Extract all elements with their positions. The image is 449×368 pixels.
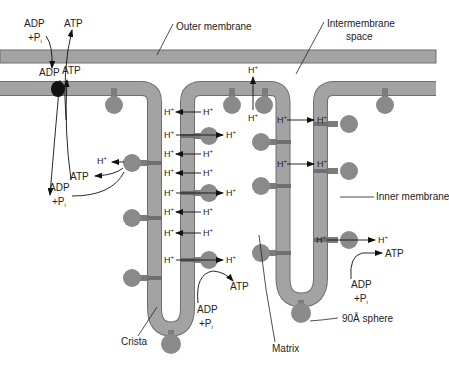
svg-text:space: space: [346, 31, 373, 42]
svg-text:90Å sphere: 90Å sphere: [342, 312, 394, 324]
proton-flow-left-crista: H+ H+ H+ H+ H+ H+ H+ H+ H+ H+ H+ H+ H+ H…: [164, 106, 237, 265]
right-synthase-reaction: ATP ADP +Pi: [351, 248, 404, 305]
svg-text:ADP: ADP: [351, 279, 372, 290]
svg-text:H+: H+: [164, 227, 175, 238]
svg-text:H+: H+: [203, 227, 214, 238]
svg-text:ADP: ADP: [49, 182, 70, 193]
translocation-labels: ADP +Pi ATP ADP ATP: [24, 18, 83, 78]
svg-text:+Pi: +Pi: [28, 32, 42, 44]
svg-text:ADP: ADP: [39, 67, 60, 78]
svg-text:H+: H+: [378, 234, 389, 245]
svg-text:H+: H+: [164, 106, 175, 117]
inner-membrane-label: Inner membrane: [340, 191, 449, 202]
svg-text:H+: H+: [164, 129, 175, 140]
svg-text:H+: H+: [203, 148, 214, 159]
svg-text:H+: H+: [97, 155, 108, 166]
svg-text:H+: H+: [164, 187, 175, 198]
mitochondrion-diagram: Outer membrane Intermembrane space Inner…: [0, 0, 449, 368]
svg-text:ADP: ADP: [24, 18, 45, 29]
inner-membrane: [0, 89, 436, 330]
svg-text:H+: H+: [203, 167, 214, 178]
lower-left-synthase-reaction: ATP ADP +Pi: [197, 271, 249, 330]
svg-text:ATP: ATP: [62, 65, 81, 76]
svg-text:Outer membrane: Outer membrane: [176, 21, 252, 32]
intermembrane-space-label: Intermembrane space: [296, 18, 395, 74]
svg-text:Matrix: Matrix: [272, 343, 299, 354]
left-synthase-reaction: H+ ATP ADP +Pi: [49, 155, 124, 208]
svg-text:+Pi: +Pi: [199, 318, 213, 330]
svg-text:ATP: ATP: [70, 171, 89, 182]
svg-text:H+: H+: [226, 254, 237, 265]
outer-membrane: [0, 50, 436, 63]
svg-text:H+: H+: [203, 206, 214, 217]
adp-atp-translocase: [51, 81, 65, 97]
svg-text:H+: H+: [164, 167, 175, 178]
svg-text:+Pi: +Pi: [52, 196, 66, 208]
svg-text:H+: H+: [226, 187, 237, 198]
sphere-label: 90Å sphere: [310, 312, 394, 324]
svg-text:ATP: ATP: [385, 248, 404, 259]
proton-channels: [147, 122, 328, 280]
svg-text:H+: H+: [248, 64, 259, 75]
svg-text:ATP: ATP: [230, 281, 249, 292]
svg-text:H+: H+: [164, 148, 175, 159]
svg-text:H+: H+: [164, 254, 175, 265]
svg-text:Intermembrane: Intermembrane: [327, 18, 395, 29]
proton-flow-right-crista: H+ H+ H+ H+ H+ H+: [277, 114, 389, 245]
svg-text:H+: H+: [226, 129, 237, 140]
svg-text:H+: H+: [164, 206, 175, 217]
svg-text:+Pi: +Pi: [354, 293, 368, 305]
svg-text:Crista: Crista: [121, 336, 148, 347]
svg-text:H+: H+: [248, 112, 259, 123]
svg-text:Inner membrane: Inner membrane: [376, 191, 449, 202]
svg-text:ATP: ATP: [64, 18, 83, 29]
svg-text:ADP: ADP: [197, 304, 218, 315]
svg-text:H+: H+: [203, 106, 214, 117]
